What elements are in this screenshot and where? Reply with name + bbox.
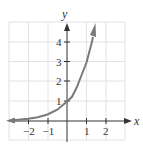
y-tick-label: 4 xyxy=(56,36,62,48)
y-tick-label: 2 xyxy=(56,75,62,87)
y-axis-label: y xyxy=(61,7,68,21)
exponential-curve xyxy=(6,23,96,124)
y-axis xyxy=(64,23,70,142)
y-tick-label: 1 xyxy=(56,95,62,107)
x-tick-label: −1 xyxy=(43,125,55,137)
exponential-graph: y x −2 −1 1 2 1 2 3 4 xyxy=(0,0,143,144)
x-tick-label: 1 xyxy=(84,125,90,137)
curve-arrow-up-icon xyxy=(90,23,96,37)
curve-arrow-left-icon xyxy=(6,118,15,124)
x-axis-label: x xyxy=(133,114,140,128)
x-axis-arrow-icon xyxy=(124,118,132,124)
y-tick-label: 3 xyxy=(56,56,62,68)
x-tick-label: −2 xyxy=(23,125,35,137)
x-tick-label: 2 xyxy=(103,125,109,137)
y-axis-arrow-icon xyxy=(64,23,70,31)
